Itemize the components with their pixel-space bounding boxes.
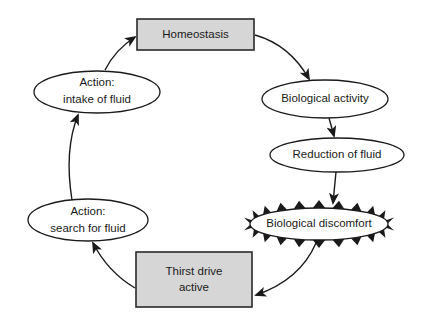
arrow-intake-to-homeostasis: [105, 37, 135, 70]
arrow-search-to-intake: [69, 115, 78, 200]
action-search-label-line1: Action:: [70, 205, 105, 217]
action-intake-label-line1: Action:: [79, 76, 114, 88]
spike-icon: [313, 200, 325, 208]
action-intake-label-line2: intake of fluid: [63, 93, 131, 105]
arrow-biological-activity-to-reduction: [329, 118, 334, 136]
thirst-drive-label-line2: active: [179, 281, 209, 293]
node-action-search: Action: search for fluid: [28, 199, 148, 241]
node-reduction-of-fluid: Reduction of fluid: [270, 138, 404, 172]
node-homeostasis: Homeostasis: [137, 19, 254, 50]
arrow-homeostasis-to-biological-activity: [255, 35, 309, 79]
node-action-intake: Action: intake of fluid: [34, 71, 160, 113]
reduction-of-fluid-label: Reduction of fluid: [293, 148, 382, 160]
biological-activity-label: Biological activity: [281, 92, 369, 104]
node-biological-activity: Biological activity: [262, 80, 388, 118]
arrow-discomfort-to-thirst: [256, 243, 316, 295]
action-search-label-line2: search for fluid: [50, 222, 125, 234]
node-thirst-drive-active: Thirst drive active: [136, 252, 252, 307]
homeostasis-label: Homeostasis: [162, 28, 229, 40]
thirst-drive-box: [136, 252, 252, 307]
node-biological-discomfort: Biological discomfort: [244, 200, 394, 248]
arrow-thirst-to-search: [93, 243, 135, 288]
arrow-reduction-to-discomfort: [333, 172, 336, 203]
thirst-drive-label-line1: Thirst drive: [166, 265, 223, 277]
biological-discomfort-label: Biological discomfort: [266, 217, 372, 229]
thirst-cycle-diagram: Homeostasis Biological activity Reductio…: [0, 0, 427, 328]
